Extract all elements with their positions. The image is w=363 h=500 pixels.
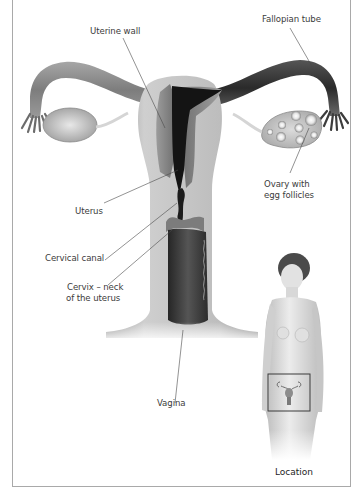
label-uterine-wall: Uterine wall <box>90 26 140 37</box>
location-inset-figure <box>255 253 335 460</box>
uterus-illustration <box>0 0 363 500</box>
label-uterus: Uterus <box>75 206 103 217</box>
left-ovary <box>43 108 97 142</box>
inset-caption-location: Location <box>275 467 313 477</box>
label-ovary-line1: Ovary with <box>264 179 310 190</box>
label-cervix-line1: Cervix – neck <box>67 282 123 293</box>
label-vagina: Vagina <box>157 398 185 409</box>
label-fallopian-tube: Fallopian tube <box>262 14 321 25</box>
label-cervical-canal: Cervical canal <box>45 253 104 264</box>
label-cervix-line2: of the uterus <box>66 293 120 304</box>
left-ovarian-ligament <box>96 113 128 127</box>
label-ovary-line2: egg follicles <box>264 190 314 201</box>
